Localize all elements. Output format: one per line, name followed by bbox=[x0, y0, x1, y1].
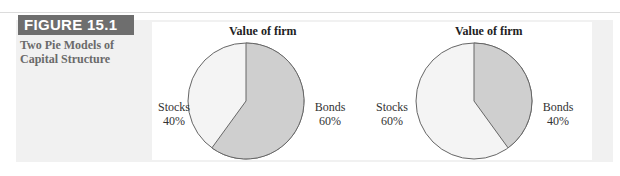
pie-chart-1: Value of firm Stocks 40% Bonds 60% bbox=[152, 22, 372, 160]
slice-label-stocks: Stocks 60% bbox=[372, 100, 412, 128]
slice-label-stocks: Stocks 40% bbox=[154, 100, 194, 128]
divider bbox=[0, 12, 620, 13]
pie-chart-2: Value of firm Stocks 60% Bonds 40% bbox=[356, 22, 592, 160]
slice-label-bonds: Bonds 60% bbox=[310, 100, 350, 128]
pie-2 bbox=[356, 22, 592, 160]
chart-area: Value of firm Stocks 40% Bonds 60% Value… bbox=[152, 22, 592, 160]
pie-1 bbox=[152, 22, 372, 160]
figure-caption: Two Pie Models of Capital Structure bbox=[20, 38, 140, 66]
slice-label-bonds: Bonds 40% bbox=[538, 100, 578, 128]
figure-label: FIGURE 15.1 bbox=[18, 15, 134, 35]
caption-line-1: Two Pie Models of bbox=[20, 38, 140, 52]
caption-line-2: Capital Structure bbox=[20, 52, 140, 66]
